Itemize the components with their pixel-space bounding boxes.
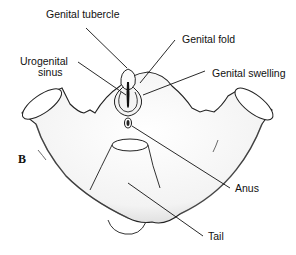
- label-genital-swelling: Genital swelling: [212, 68, 286, 79]
- label-tail: Tail: [208, 231, 224, 242]
- leader-genital-tubercle: [86, 28, 127, 68]
- label-urogenital-sinus-line2: sinus: [38, 67, 63, 78]
- label-genital-tubercle: Genital tubercle: [46, 9, 120, 20]
- diagram-illustration: [0, 0, 296, 255]
- embryo-external-genitalia-diagram: Genital tubercle Genital fold Urogenital…: [0, 0, 296, 255]
- tail-end: [112, 139, 148, 151]
- leader-urogenital-sinus: [78, 62, 126, 95]
- label-genital-fold: Genital fold: [182, 34, 235, 45]
- urogenital-sinus-shape: [127, 82, 130, 108]
- panel-letter: B: [18, 154, 26, 165]
- label-anus: Anus: [235, 183, 259, 194]
